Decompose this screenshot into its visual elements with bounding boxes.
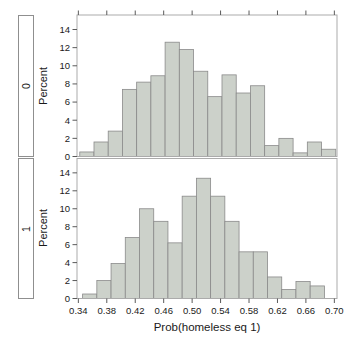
histogram-bar [250,86,264,157]
histogram-bar [211,196,225,298]
histogram-bar [137,82,151,156]
histogram-bar [182,196,196,298]
histogram-bar [293,153,307,157]
histogram-bar [80,152,94,157]
y-tick-label: 6 [65,96,70,107]
x-tick-label: 0.70 [325,305,344,316]
histogram-bar [108,131,122,156]
histogram-bar [296,281,310,298]
histogram-bar [122,89,136,156]
histogram-bar [310,286,324,299]
y-tick-label: 8 [65,78,70,89]
histogram-bar [279,138,293,156]
histogram-bar [154,221,168,298]
y-tick-label: 14 [59,167,70,178]
histogram-bar [268,277,282,299]
histogram-bar [111,264,125,299]
histogram-bar [307,142,321,157]
x-tick-label: 0.46 [154,305,173,316]
histogram-bar [194,71,208,156]
y-tick-label: 4 [65,115,70,126]
x-tick-label: 0.54 [211,305,230,316]
histogram-bar [83,294,97,298]
histogram-bar [208,97,222,157]
histogram-bar [125,237,139,298]
y-tick-label: 2 [65,133,70,144]
y-tick-label: 10 [59,60,70,71]
histogram-bar [265,146,279,157]
histogram-bar [322,149,336,156]
histogram-bar [94,142,108,157]
x-tick-label: 0.38 [98,305,117,316]
histogram-bar [225,221,239,298]
x-tick-label: 0.34 [69,305,88,316]
y-tick-label: 14 [59,24,70,35]
histogram-bar [196,178,210,298]
histogram-bar [140,209,154,299]
y-tick-label: 12 [59,42,70,53]
x-tick-label: 0.58 [240,305,259,316]
histogram-bar [222,75,236,157]
histogram-bar [168,243,182,299]
histogram-bar [239,252,253,299]
histogram-bar [179,49,193,156]
histogram-bar [97,281,111,299]
y-tick-label: 2 [65,275,70,286]
y-tick-label: 6 [65,239,70,250]
x-tick-label: 0.62 [268,305,287,316]
y-tick-label: 0 [65,293,70,304]
histogram-plot: 02468101214024681012140.340.380.420.460.… [0,0,354,354]
histogram-bar [151,76,165,157]
x-tick-label: 0.66 [297,305,316,316]
y-tick-label: 8 [65,221,70,232]
y-tick-label: 4 [65,257,70,268]
x-tick-label: 0.42 [126,305,145,316]
x-axis-label: Prob(homeless eq 1) [77,321,337,333]
histogram-bar [253,252,267,299]
x-tick-label: 0.50 [183,305,202,316]
y-tick-label: 0 [65,151,70,162]
histogram-bar [165,42,179,156]
histogram-bar [282,290,296,299]
histogram-bar [236,93,250,156]
y-tick-label: 10 [59,203,70,214]
y-tick-label: 12 [59,185,70,196]
trellis-histogram-figure: 0 1 Percent Percent 02468101214024681012… [0,0,354,354]
